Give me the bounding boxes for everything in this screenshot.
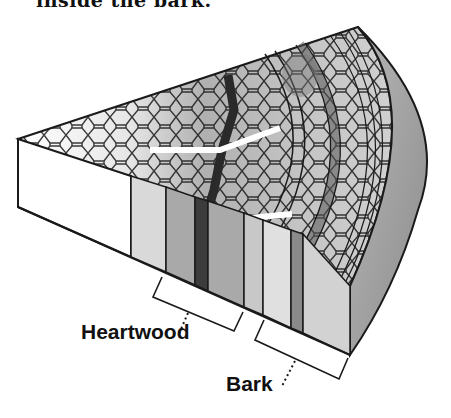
heartwood-label: Heartwood (81, 320, 190, 344)
bark-label: Bark (226, 372, 273, 396)
tree-wedge-diagram (0, 0, 451, 418)
